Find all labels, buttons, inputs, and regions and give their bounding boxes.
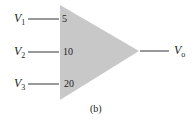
input-label-3: V3 [14,77,25,94]
input-label-1: V1 [14,12,25,29]
output-label: Vo [174,44,185,61]
gain-2: 10 [63,47,73,57]
gain-3: 20 [64,79,74,89]
input-label-2: V2 [14,45,25,62]
gain-1: 5 [62,14,67,24]
caption: (b) [90,104,102,114]
